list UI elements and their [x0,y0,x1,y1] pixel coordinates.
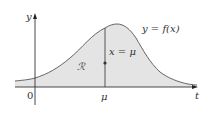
centroid-dot [103,61,106,64]
y-axis-arrow-icon [33,13,37,19]
mu-tick-label: μ [101,91,108,102]
t-axis-label: t [195,90,200,101]
distribution-figure: y 0 μ t y = f(x) x = μ ℛ [0,0,211,115]
origin-label: 0 [27,90,33,101]
region-label: ℛ [77,61,86,72]
curve-label: y = f(x) [141,23,180,34]
y-axis-label: y [25,11,32,22]
mean-line-label: x = μ [109,46,136,57]
